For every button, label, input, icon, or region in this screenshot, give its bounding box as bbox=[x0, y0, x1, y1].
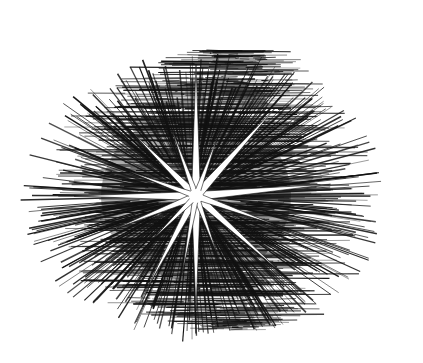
star-burst-engraving bbox=[0, 0, 423, 363]
